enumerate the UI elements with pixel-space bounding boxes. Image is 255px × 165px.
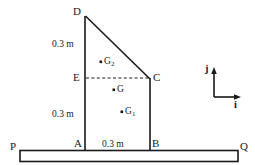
dot-G1 [121,111,124,114]
vertex-label-E: E [73,72,80,83]
axis-label-j: j [205,64,209,75]
vertex-label-B: B [152,138,159,149]
vertex-label-C: C [153,72,160,83]
point-label-G1: G1 [125,107,135,117]
point-label-G2-base: G [104,56,111,66]
dot-G2 [100,61,103,64]
point-label-G1-base: G [125,106,132,116]
axis-j-arrowhead [211,67,217,74]
vertex-label-Q: Q [240,141,248,152]
vertex-label-D: D [73,6,81,17]
dimension-label-lower-height: 0.3 m [52,110,74,120]
dimension-label-upper-height: 0.3 m [52,40,74,50]
figure-canvas [0,0,255,165]
vertex-label-P: P [10,141,16,152]
axis-label-i: i [234,100,237,111]
dot-G [113,89,116,92]
vertex-label-A: A [74,138,82,149]
point-label-G2: G2 [104,57,114,67]
point-label-G-base: G [117,84,124,94]
point-label-G2-subscript: 2 [111,60,115,68]
point-label-G: G [117,85,124,95]
edge-DC [86,16,151,79]
beam-PQ [20,151,238,162]
dimension-label-base-width: 0.3 m [102,140,124,150]
point-label-G1-subscript: 1 [132,110,136,118]
geometry-figure: D C E A B P Q 0.3 m 0.3 m 0.3 m G2 G G1 … [0,0,255,165]
